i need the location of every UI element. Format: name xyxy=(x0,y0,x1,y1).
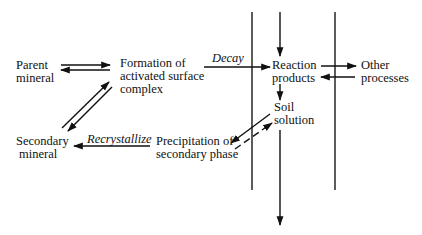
edge-label-decay: Decay xyxy=(212,52,244,65)
node-other-processes: Other processes xyxy=(361,59,409,85)
node-reaction-products: Reaction products xyxy=(272,59,316,85)
diagram-canvas xyxy=(0,0,422,235)
node-text: secondary phase xyxy=(156,148,238,161)
node-secondary-mineral: Secondary mineral xyxy=(16,135,69,161)
node-text: processes xyxy=(361,72,409,85)
node-text: products xyxy=(272,72,316,85)
node-text: solution xyxy=(274,114,314,127)
node-text: mineral xyxy=(16,72,54,85)
arrow-secondary-to-formation xyxy=(62,82,109,128)
edge-label-recrystallize: Recrystallize xyxy=(87,133,152,146)
node-precipitation-secondary-phase: Precipitation of secondary phase xyxy=(156,135,238,161)
node-text: complex xyxy=(120,83,204,96)
arrow-formation-to-secondary xyxy=(68,87,112,131)
node-soil-solution: Soil solution xyxy=(274,101,314,127)
node-parent-mineral: Parent mineral xyxy=(16,59,54,85)
node-formation-activated-surface-complex: Formation of activated surface complex xyxy=(120,57,204,96)
node-text: mineral xyxy=(16,148,69,161)
